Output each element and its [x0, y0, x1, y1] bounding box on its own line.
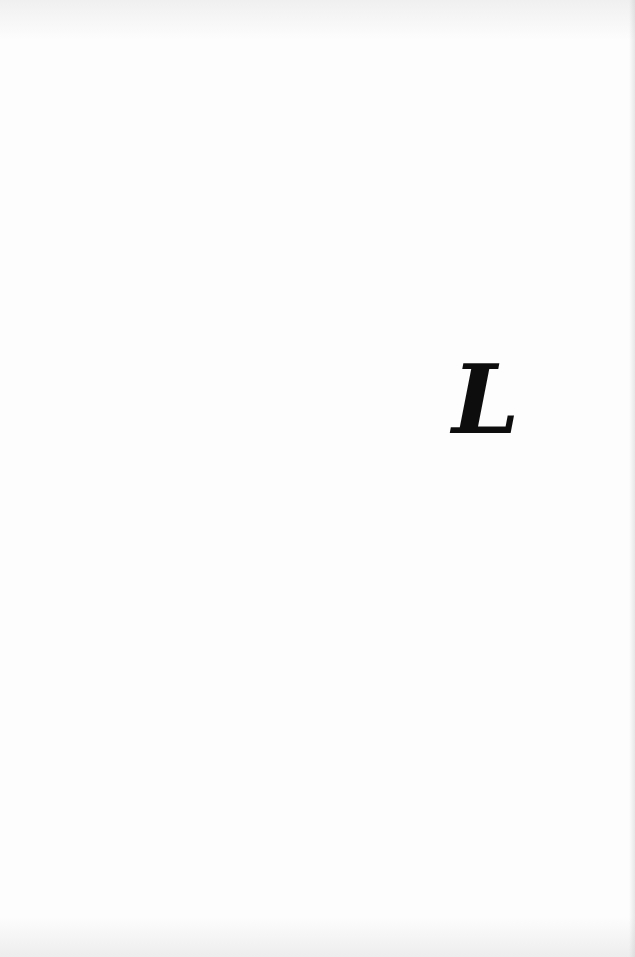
page-bottom-edge-shadow: [0, 917, 635, 957]
scanned-page: L: [0, 0, 635, 957]
large-letter-l: L: [452, 352, 520, 448]
page-top-edge-shadow: [0, 0, 635, 40]
page-right-edge-shadow: [629, 0, 635, 957]
